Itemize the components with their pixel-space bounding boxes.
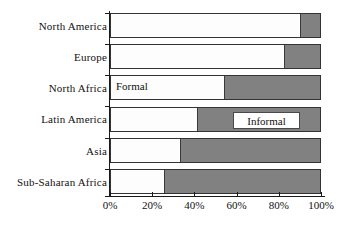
bar-segment-informal	[284, 45, 320, 68]
bar-segment-formal	[111, 45, 284, 68]
x-tick-0	[110, 192, 111, 197]
x-tick-label-80: 80%	[259, 199, 299, 212]
x-tick-100	[321, 192, 322, 197]
table-row	[110, 138, 321, 163]
series-label-formal: Formal	[116, 80, 148, 93]
x-tick-label-20: 20%	[132, 199, 172, 212]
bar-segment-formal	[111, 170, 164, 193]
x-axis-line	[105, 196, 325, 197]
bar-segment-informal	[164, 170, 320, 193]
series-label-informal: Informal	[233, 112, 300, 129]
table-row	[110, 13, 321, 38]
stacked-bar-chart: North America Europe North Africa Latin …	[0, 0, 346, 240]
x-tick-20	[152, 192, 153, 197]
category-label-latin-america: Latin America	[3, 113, 107, 125]
bar-segment-informal	[300, 14, 320, 37]
bar-segment-formal	[111, 14, 300, 37]
table-row	[110, 169, 321, 194]
category-label-north-america: North America	[3, 20, 107, 32]
bar-segment-informal	[180, 139, 320, 162]
x-tick-label-0: 0%	[90, 199, 130, 212]
category-label-north-africa: North Africa	[3, 82, 107, 94]
category-label-asia: Asia	[3, 145, 107, 157]
bar-segment-formal	[111, 139, 180, 162]
x-tick-label-60: 60%	[217, 199, 257, 212]
x-tick-60	[237, 192, 238, 197]
x-tick-label-40: 40%	[174, 199, 214, 212]
x-tick-40	[194, 192, 195, 197]
category-label-europe: Europe	[3, 51, 107, 63]
x-tick-80	[279, 192, 280, 197]
x-tick-label-100: 100%	[301, 199, 341, 212]
bar-segment-informal	[224, 76, 320, 99]
category-label-sub-saharan-africa: Sub-Saharan Africa	[3, 176, 107, 188]
plot-area	[110, 12, 321, 195]
bar-segment-formal	[111, 108, 197, 131]
table-row	[110, 44, 321, 69]
